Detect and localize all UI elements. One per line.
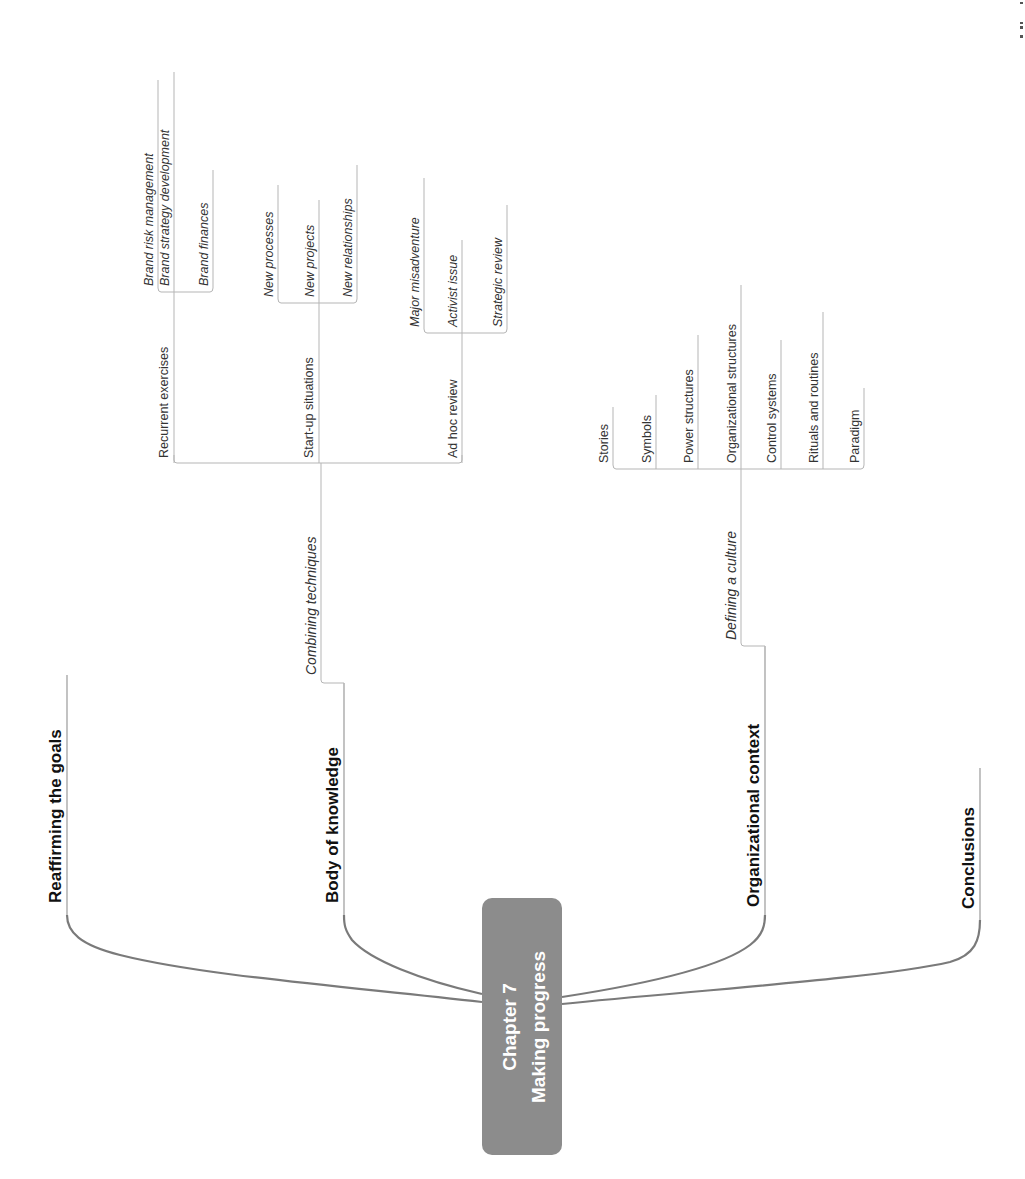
connector-body-of-knowledge (344, 915, 482, 994)
leaf-brand-risk-management[interactable]: Brand risk management (142, 153, 156, 286)
leaf-symbols[interactable]: Symbols (640, 415, 654, 463)
bracket-ad-hoc-children (424, 329, 507, 333)
bracket-combining-groups (174, 455, 462, 463)
main-topic-conclusions[interactable]: Conclusions (959, 807, 978, 909)
central-topic-line1: Chapter 7 (499, 983, 520, 1071)
leaf-new-relationships[interactable]: New relationships (341, 198, 355, 297)
leaf-brand-strategy-development[interactable]: Brand strategy development (158, 129, 172, 286)
connector-organizational-context (562, 915, 765, 997)
subtopic-combining-techniques[interactable]: Combining techniques (303, 536, 319, 675)
group-recurrent-exercises[interactable]: Recurrent exercises (157, 347, 171, 458)
corner-mark-icon (1020, 2, 1023, 38)
leaf-strategic-review[interactable]: Strategic review (491, 237, 505, 327)
main-topic-reaffirming-the-goals[interactable]: Reaffirming the goals (46, 729, 65, 903)
bracket-start-up-children (278, 299, 357, 303)
connector-defining-a-culture (741, 469, 765, 646)
connector-combining-techniques (321, 463, 344, 683)
leaf-new-projects[interactable]: New projects (303, 225, 317, 297)
group-ad-hoc-review[interactable]: Ad hoc review (446, 379, 460, 458)
leaf-control-systems[interactable]: Control systems (765, 373, 779, 463)
central-topic-box[interactable] (482, 898, 562, 1155)
main-topic-organizational-context[interactable]: Organizational context (744, 723, 763, 907)
leaf-stories[interactable]: Stories (597, 424, 611, 463)
leaf-power-structures[interactable]: Power structures (682, 369, 696, 463)
connector-reaffirming (67, 915, 482, 1002)
main-topic-body-of-knowledge[interactable]: Body of knowledge (323, 747, 342, 903)
central-topic-line2: Making progress (528, 951, 549, 1103)
leaf-rituals-and-routines[interactable]: Rituals and routines (807, 353, 821, 463)
leaf-new-processes[interactable]: New processes (262, 212, 276, 297)
leaf-activist-issue[interactable]: Activist issue (446, 255, 460, 328)
bracket-culture-children (613, 465, 864, 469)
leaf-major-misadventure[interactable]: Major misadventure (408, 217, 422, 327)
connector-conclusions (562, 920, 980, 1004)
leaf-paradigm[interactable]: Paradigm (848, 410, 862, 464)
bracket-recurrent-children (158, 288, 213, 292)
group-start-up-situations[interactable]: Start-up situations (302, 357, 316, 458)
leaf-organizational-structures[interactable]: Organizational structures (725, 324, 739, 463)
leaf-brand-finances[interactable]: Brand finances (197, 203, 211, 286)
subtopic-defining-a-culture[interactable]: Defining a culture (723, 531, 739, 640)
mind-map-canvas: Reaffirming the goals Body of knowledge … (0, 0, 1025, 1179)
